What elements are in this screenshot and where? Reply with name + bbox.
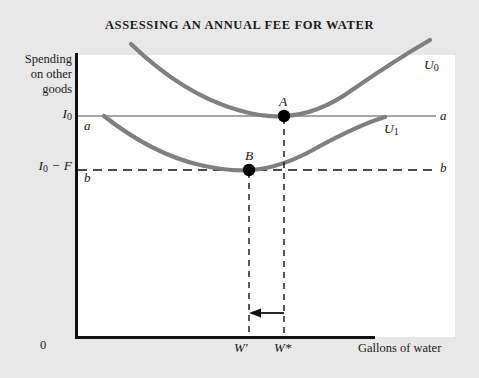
y-axis-title-line1: Spending xyxy=(8,52,72,67)
curve-label-u1-main: U xyxy=(384,121,394,136)
budget-line-b-left-label: b xyxy=(84,170,91,185)
budget-line-a-right-label: a xyxy=(440,108,447,123)
point-a-marker xyxy=(278,110,290,122)
figure-assessing-annual-fee-for-water: ASSESSING AN ANNUAL FEE FOR WATER Spendi… xyxy=(0,0,479,378)
arrow-water-decrease xyxy=(249,308,284,317)
y-axis-title: Spending on other goods xyxy=(8,52,72,96)
y-tick-label-i0: I0 xyxy=(14,106,72,123)
point-b-label: B xyxy=(245,148,253,164)
y-tick-i0f-suffix: − F xyxy=(48,158,72,173)
y-tick-label-i0-minus-f: I0 − F xyxy=(4,158,72,175)
curve-label-u1: U1 xyxy=(384,121,399,138)
curve-label-u0: U0 xyxy=(424,57,439,74)
x-tick-wstar-main: W xyxy=(274,340,285,355)
point-a-label: A xyxy=(279,94,287,110)
y-axis-title-line3: goods xyxy=(8,82,72,97)
curve-label-u0-main: U xyxy=(424,57,434,72)
y-tick-i0-subscript: 0 xyxy=(67,111,72,122)
y-axis-title-line2: on other xyxy=(8,67,72,82)
x-tick-label-w-prime: W′ xyxy=(234,340,248,355)
budget-line-a-left-label: a xyxy=(84,118,91,133)
x-tick-wprime-superscript: ′ xyxy=(245,340,248,355)
curve-label-u0-subscript: 0 xyxy=(434,62,439,73)
origin-label: 0 xyxy=(40,338,46,353)
x-tick-label-w-star: W* xyxy=(274,340,291,355)
x-tick-wprime-main: W xyxy=(234,340,245,355)
x-axis-title: Gallons of water xyxy=(358,341,441,356)
budget-line-b-right-label: b xyxy=(440,160,447,175)
x-tick-wstar-superscript: * xyxy=(285,340,292,355)
point-b-marker xyxy=(243,164,255,176)
curve-label-u1-subscript: 1 xyxy=(394,126,399,137)
